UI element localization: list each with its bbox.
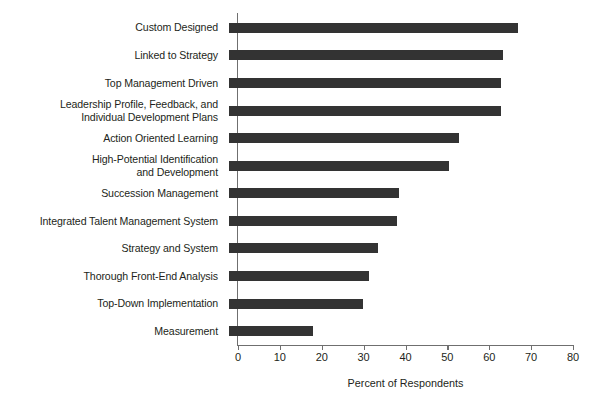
category-label: Strategy and System [0, 242, 228, 255]
bar-track [228, 317, 603, 345]
bar-row: Custom Designed [0, 14, 613, 42]
bar-track [228, 97, 603, 125]
bar-track [228, 262, 603, 290]
bar-row: Succession Management [0, 180, 613, 208]
bar-track [228, 124, 603, 152]
bar-row: Strategy and System [0, 235, 613, 263]
tick-mark [447, 345, 448, 350]
bar [229, 78, 501, 88]
bar [229, 188, 399, 198]
bar [229, 50, 503, 60]
bar-row: Leadership Profile, Feedback, and Indivi… [0, 97, 613, 125]
category-label: Leadership Profile, Feedback, and Indivi… [0, 98, 228, 123]
tick-mark [531, 345, 532, 350]
bar-row: Linked to Strategy [0, 42, 613, 70]
bar [229, 326, 313, 336]
bar-track [228, 290, 603, 318]
bar-track [228, 14, 603, 42]
tick-label: 80 [553, 351, 593, 363]
tick-label: 10 [260, 351, 300, 363]
bar-track [228, 235, 603, 263]
tick-label: 60 [469, 351, 509, 363]
tick-mark [280, 345, 281, 350]
tick-label: 20 [302, 351, 342, 363]
bar [229, 243, 378, 253]
bar-chart: Custom DesignedLinked to StrategyTop Man… [0, 0, 613, 418]
bar-track [228, 69, 603, 97]
category-label: Measurement [0, 325, 228, 338]
bar-rows: Custom DesignedLinked to StrategyTop Man… [0, 14, 613, 345]
category-label: Custom Designed [0, 21, 228, 34]
category-label: Linked to Strategy [0, 49, 228, 62]
bar-row: Top-Down Implementation [0, 290, 613, 318]
bar-row: Top Management Driven [0, 69, 613, 97]
category-label: Integrated Talent Management System [0, 215, 228, 228]
bar [229, 216, 397, 226]
tick-mark [489, 345, 490, 350]
category-label: Top Management Driven [0, 77, 228, 90]
tick-mark [573, 345, 574, 350]
category-label: Thorough Front-End Analysis [0, 270, 228, 283]
category-label: High-Potential Identification and Develo… [0, 153, 228, 178]
tick-label: 40 [386, 351, 426, 363]
bar-track [228, 152, 603, 180]
bar [229, 161, 449, 171]
tick-label: 0 [218, 351, 258, 363]
bar-track [228, 42, 603, 70]
category-label: Top-Down Implementation [0, 297, 228, 310]
tick-mark [238, 345, 239, 350]
x-axis-title: Percent of Respondents [238, 377, 573, 389]
bar-track [228, 180, 603, 208]
bar-row: Measurement [0, 317, 613, 345]
bar [229, 23, 518, 33]
bar-row: Integrated Talent Management System [0, 207, 613, 235]
bar [229, 133, 459, 143]
bar-row: Thorough Front-End Analysis [0, 262, 613, 290]
category-label: Action Oriented Learning [0, 132, 228, 145]
bar-track [228, 207, 603, 235]
tick-label: 50 [427, 351, 467, 363]
bar [229, 299, 363, 309]
bar [229, 271, 369, 281]
tick-mark [322, 345, 323, 350]
tick-mark [406, 345, 407, 350]
tick-label: 70 [511, 351, 551, 363]
tick-label: 30 [344, 351, 384, 363]
bar [229, 106, 501, 116]
category-label: Succession Management [0, 187, 228, 200]
tick-mark [364, 345, 365, 350]
bar-row: Action Oriented Learning [0, 124, 613, 152]
bar-row: High-Potential Identification and Develo… [0, 152, 613, 180]
x-axis-ticks: 01020304050607080 [0, 345, 613, 375]
